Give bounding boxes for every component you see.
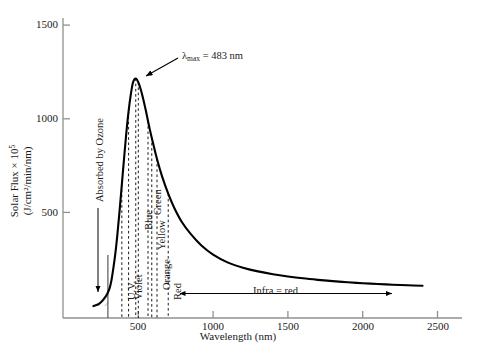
lambda-max-annotation: λmax = 483 nm [182, 50, 243, 63]
spectrum-band-label-red: Red [172, 283, 183, 300]
solar-flux-curve [93, 78, 422, 306]
x-tick-label-2500: 2500 [418, 320, 458, 332]
spectrum-band-label-green: Green [152, 189, 163, 215]
lambda-subscript: max [187, 54, 200, 63]
x-axis-title: Wavelength (nm) [178, 330, 298, 342]
y-axis-title-line1: Solar Flux × 10 [8, 148, 20, 217]
lambda-max-value: = 483 nm [200, 50, 243, 61]
y-axis-title-line2: (J/cm²/min/nm) [21, 147, 33, 216]
x-tick-label-500: 500 [118, 320, 158, 332]
y-axis-title: Solar Flux × 105 (J/cm²/min/nm) [8, 116, 34, 246]
spectrum-band-label-orange: Orange [161, 259, 172, 290]
spectrum-band-label-violet: Violet [133, 274, 144, 300]
infra-red-label: Infra = red [253, 285, 298, 296]
y-axis-title-exponent: 5 [8, 145, 17, 149]
solar-flux-chart-figure: 1500 1000 500 500 1000 1500 2000 2500 So… [0, 0, 480, 354]
spectrum-band-label-yellow: Yellow [156, 220, 167, 250]
absorbed-by-ozone-label: Absorbed by Ozone [94, 118, 105, 202]
lambda-max-arrow [146, 58, 178, 76]
y-axis-ticks [63, 25, 70, 212]
y-tick-label-1500: 1500 [10, 18, 58, 30]
x-tick-label-2000: 2000 [343, 320, 383, 332]
x-axis-ticks [138, 311, 437, 318]
ozone-absorption-region [93, 291, 108, 306]
